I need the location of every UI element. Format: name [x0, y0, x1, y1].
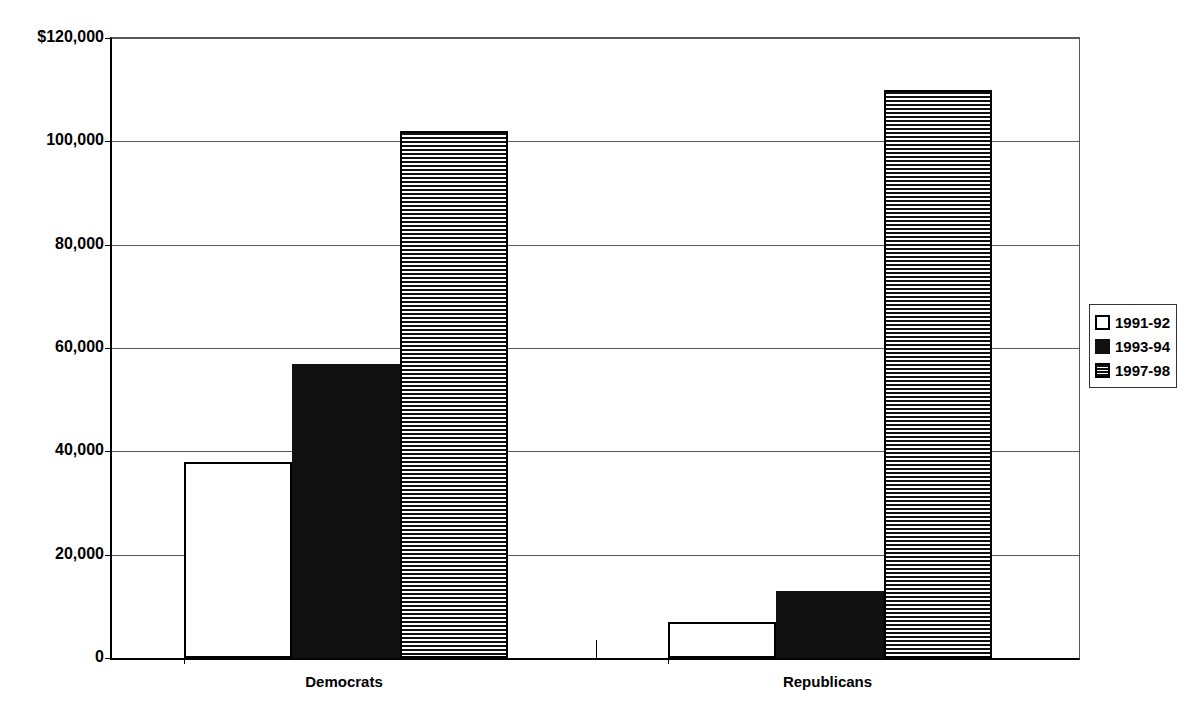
- x-axis-category-label: Republicans: [783, 673, 872, 690]
- y-axis-tick-label: $120,000: [4, 29, 104, 45]
- legend-swatch-icon: [1095, 339, 1110, 354]
- legend-swatch-icon: [1095, 315, 1110, 330]
- y-axis-tick: [105, 451, 112, 452]
- bar: [400, 131, 508, 658]
- bar: [776, 591, 884, 658]
- y-axis-tick: [105, 141, 112, 142]
- legend-entry: 1997-98: [1095, 358, 1170, 382]
- y-axis-tick-label: 20,000: [4, 546, 104, 562]
- y-axis-tick: [105, 245, 112, 246]
- legend-entry: 1993-94: [1095, 334, 1170, 358]
- category-separator: [596, 640, 597, 658]
- bar: [668, 622, 776, 658]
- y-axis-tick-label: 100,000: [4, 132, 104, 148]
- legend-swatch-icon: [1095, 363, 1110, 378]
- legend-label: 1993-94: [1115, 339, 1170, 354]
- legend-entry-group: 1991-921993-941997-98: [1095, 310, 1170, 382]
- y-axis-label-group: 020,00040,00060,00080,000100,000$120,000: [0, 0, 104, 714]
- chart-legend: 1991-921993-941997-98: [1089, 304, 1177, 388]
- y-axis-tick: [105, 38, 112, 39]
- y-axis-tick-label: 40,000: [4, 442, 104, 458]
- y-axis-tick-label: 60,000: [4, 339, 104, 355]
- bar: [292, 364, 400, 659]
- y-axis-tick-label: 80,000: [4, 236, 104, 252]
- x-axis-minor-tick: [668, 658, 669, 664]
- bar: [884, 90, 992, 658]
- gridline: [112, 38, 1079, 39]
- bar: [184, 462, 292, 658]
- legend-label: 1997-98: [1115, 363, 1170, 378]
- legend-entry: 1991-92: [1095, 310, 1170, 334]
- y-axis-tick-label: 0: [4, 649, 104, 665]
- x-axis-minor-tick: [184, 658, 185, 664]
- x-axis-label-group: DemocratsRepublicans: [110, 673, 1077, 697]
- legend-label: 1991-92: [1115, 315, 1170, 330]
- bar-chart: 020,00040,00060,00080,000100,000$120,000…: [0, 0, 1201, 714]
- plot-area: [110, 37, 1080, 660]
- x-axis-category-label: Democrats: [305, 673, 383, 690]
- y-axis-tick: [105, 348, 112, 349]
- y-axis-tick: [105, 658, 112, 659]
- y-axis-tick: [105, 555, 112, 556]
